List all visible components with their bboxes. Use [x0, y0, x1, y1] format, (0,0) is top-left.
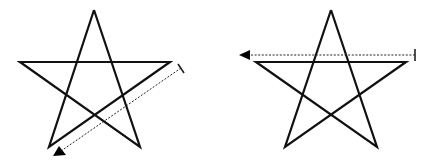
pentagram-diagram	[0, 0, 431, 163]
right-figure	[239, 10, 415, 147]
right-star-shape	[256, 10, 406, 147]
left-arrow-start-tick	[178, 64, 184, 73]
left-star-shape	[20, 10, 170, 147]
left-figure	[20, 10, 184, 156]
right-arrowhead-icon	[239, 50, 250, 60]
left-dotted-arrow-line	[61, 68, 181, 151]
left-arrowhead-icon	[53, 146, 66, 156]
